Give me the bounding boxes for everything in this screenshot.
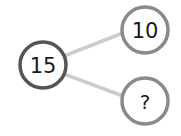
whole-value: 15 xyxy=(30,54,57,78)
whole-circle: 15 xyxy=(20,42,66,88)
part-2-unknown: ? xyxy=(140,90,151,114)
connector-whole-to-part-1 xyxy=(64,33,123,56)
connector-whole-to-part-2 xyxy=(64,74,123,96)
part-circle-2: ? xyxy=(122,78,168,124)
part-1-value: 10 xyxy=(132,19,159,43)
number-bond-diagram: 15 10 ? xyxy=(0,0,181,136)
part-circle-1: 10 xyxy=(122,7,168,53)
